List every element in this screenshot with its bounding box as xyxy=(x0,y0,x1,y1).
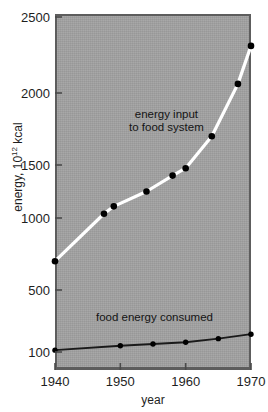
data-point-marker xyxy=(169,172,176,179)
x-tick-label: 1960 xyxy=(171,375,200,388)
x-tick-label: 1950 xyxy=(106,375,135,388)
series-energy-input xyxy=(52,43,255,265)
series-label-energy-input: energy input to food system xyxy=(129,108,204,134)
series-label-energy-input-line1: energy input xyxy=(129,108,204,121)
data-point-marker xyxy=(118,343,123,348)
line-energy-input xyxy=(55,46,251,261)
markers-energy-input xyxy=(52,43,255,265)
y-axis-title-suffix: kcal xyxy=(11,122,25,147)
data-point-marker xyxy=(52,258,59,265)
data-point-marker xyxy=(248,331,253,336)
data-point-marker xyxy=(182,165,189,172)
x-axis-title: year xyxy=(55,393,251,407)
data-point-marker xyxy=(150,341,155,346)
data-point-marker xyxy=(235,81,242,88)
x-tick-label: 1970 xyxy=(237,375,266,388)
x-axis-tick-marks xyxy=(55,363,251,370)
y-axis-title-prefix: energy, 10 xyxy=(11,156,25,212)
y-tick-label: 100 xyxy=(4,346,50,359)
series-label-energy-input-line2: to food system xyxy=(129,121,204,134)
y-axis-title: energy, 1012 kcal xyxy=(11,97,25,237)
y-tick-label: 2500 xyxy=(4,11,50,24)
y-axis-labels: 1005001000150020002500 xyxy=(0,0,50,412)
markers-food-energy-consumed xyxy=(52,331,253,352)
data-point-marker xyxy=(248,43,255,50)
y-axis-tick-marks xyxy=(55,17,62,352)
data-point-marker xyxy=(111,203,118,210)
data-point-marker xyxy=(209,133,216,140)
data-point-marker xyxy=(143,188,150,195)
data-point-marker xyxy=(183,340,188,345)
data-point-marker xyxy=(101,210,108,217)
y-tick-label: 500 xyxy=(4,284,50,297)
chart-figure: energy input to food system food energy … xyxy=(0,0,268,412)
x-tick-label: 1940 xyxy=(41,375,70,388)
series-food-energy-consumed xyxy=(52,331,253,352)
series-label-food-energy-consumed: food energy consumed xyxy=(96,311,213,324)
data-point-marker xyxy=(216,336,221,341)
y-axis-title-exponent: 12 xyxy=(10,147,19,156)
